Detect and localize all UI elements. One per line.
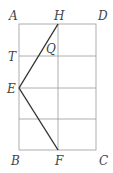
label-d: D (97, 9, 108, 23)
label-h: H (53, 9, 65, 23)
label-q: Q (46, 42, 56, 56)
grid (19, 24, 96, 150)
geometry-diagram: A H D T Q E B F C (0, 0, 113, 173)
label-f: F (54, 154, 64, 168)
label-c: C (99, 154, 108, 168)
label-e: E (6, 82, 16, 96)
label-b: B (10, 154, 20, 168)
label-t: T (8, 50, 17, 64)
labels: A H D T Q E B F C (6, 9, 108, 168)
label-a: A (8, 9, 18, 23)
rectangle-abcd (19, 24, 96, 150)
